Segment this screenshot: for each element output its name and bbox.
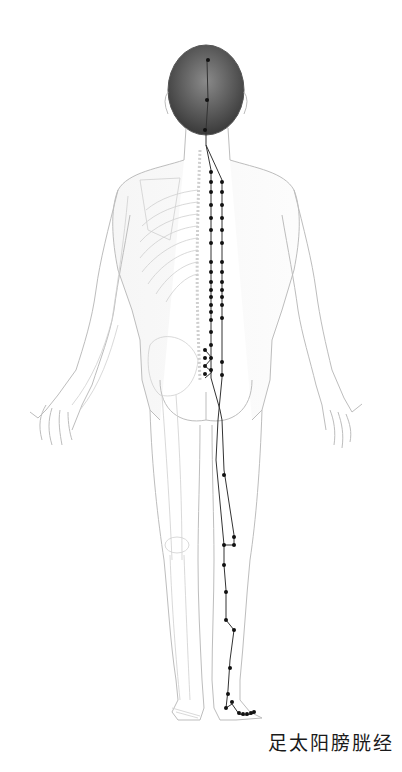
- torso-outline: [113, 160, 300, 420]
- acupoint: [209, 303, 213, 307]
- acupoint: [232, 628, 236, 632]
- acupoint: [220, 241, 224, 245]
- acupoint: [209, 170, 213, 174]
- acupoint: [224, 618, 228, 622]
- acupoint: [220, 190, 224, 194]
- acupoint: [224, 706, 228, 710]
- body-outline: [30, 45, 362, 720]
- acupoint: [222, 543, 226, 547]
- acupoint: [220, 303, 224, 307]
- acupoint: [220, 228, 224, 232]
- acupoint: [203, 128, 207, 132]
- acupoint: [209, 228, 213, 232]
- acupoint: [209, 203, 213, 207]
- foot-bones: [172, 708, 200, 718]
- acupoint: [220, 260, 224, 264]
- left-leg: [150, 410, 204, 720]
- acupoint: [209, 295, 213, 299]
- meridian-diagram: [0, 0, 402, 772]
- acupoint: [245, 712, 249, 716]
- acupoint: [232, 535, 236, 539]
- femur: [162, 395, 182, 560]
- acupoint: [220, 180, 224, 184]
- knee-joint: [165, 537, 189, 553]
- left-ear: [165, 92, 168, 114]
- acupoint: [220, 360, 224, 364]
- acupoint: [222, 563, 226, 567]
- acupoint: [220, 216, 224, 220]
- acupoint: [203, 372, 207, 376]
- acupoint: [228, 666, 232, 670]
- diagram-caption: 足太阳膀胱经: [268, 728, 394, 755]
- acupoint: [209, 343, 213, 347]
- acupoint: [209, 288, 213, 292]
- left-hand: [30, 405, 72, 445]
- acupoint: [209, 241, 213, 245]
- acupoint: [206, 58, 210, 62]
- acupoint: [220, 270, 224, 274]
- radius-ulna: [72, 320, 118, 410]
- acupoint: [209, 260, 213, 264]
- acupoint: [232, 543, 236, 547]
- right-hand: [330, 404, 362, 448]
- acupoint: [209, 330, 213, 334]
- right-leg: [212, 410, 262, 720]
- acupoint: [205, 98, 209, 102]
- right-ear: [244, 92, 247, 114]
- acupoint: [209, 180, 213, 184]
- head: [168, 45, 244, 135]
- acupoint: [252, 710, 256, 714]
- acupoint: [209, 368, 213, 372]
- acupoint: [224, 590, 228, 594]
- tibia-fibula: [170, 555, 190, 700]
- buttocks: [160, 380, 252, 421]
- acupoint: [203, 364, 207, 368]
- spine: [197, 150, 200, 380]
- acupoint: [209, 270, 213, 274]
- acupoint: [209, 356, 213, 360]
- acupoint: [209, 318, 213, 322]
- acupoint: [222, 473, 226, 477]
- acupoint: [241, 712, 245, 716]
- acupoint: [220, 295, 224, 299]
- acupoint: [220, 280, 224, 284]
- acupoint: [220, 316, 224, 320]
- acupoint: [209, 190, 213, 194]
- acupoint: [209, 280, 213, 284]
- acupoint: [220, 288, 224, 292]
- acupoint: [230, 700, 234, 704]
- acupoint: [209, 216, 213, 220]
- acupoint: [203, 348, 207, 352]
- acupoint: [203, 356, 207, 360]
- acupoint: [220, 373, 224, 377]
- acupoint: [209, 310, 213, 314]
- acupoint: [220, 203, 224, 207]
- acupoint: [237, 711, 241, 715]
- acupoint: [226, 692, 230, 696]
